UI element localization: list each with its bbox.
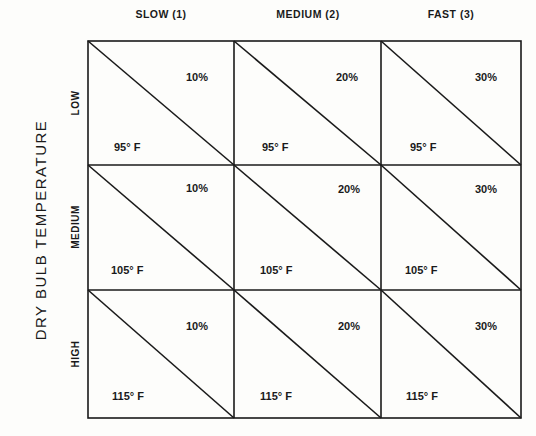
cell-temperature: 105° F [405,264,438,276]
cell-temperature: 105° F [260,264,293,276]
cell-percent: 10% [186,182,208,194]
cell-percent: 30% [475,71,497,83]
cell-temperature: 115° F [406,390,438,402]
cell-temperature: 115° F [112,390,144,402]
cell-percent: 20% [338,320,360,332]
cell-percent: 10% [186,320,208,332]
cell-percent: 20% [336,71,358,83]
matrix-grid [0,0,536,436]
cell-percent: 30% [475,320,497,332]
cell-temperature: 95° F [262,141,288,153]
cell-temperature: 95° F [410,141,436,153]
cell-percent: 20% [338,183,360,195]
cell-diagonal [381,41,521,165]
cell-diagonal [88,41,234,165]
cell-temperature: 95° F [114,141,140,153]
cell-temperature: 105° F [111,264,144,276]
cell-diagonal [88,290,234,418]
cell-diagonal [381,165,521,290]
cell-temperature: 115° F [260,390,292,402]
grid-border [88,41,521,418]
cell-diagonal [234,290,381,418]
cell-percent: 30% [475,183,497,195]
cell-percent: 10% [186,71,208,83]
cell-diagonal [381,290,521,418]
cell-diagonal [88,165,234,290]
cell-diagonal [234,41,381,165]
